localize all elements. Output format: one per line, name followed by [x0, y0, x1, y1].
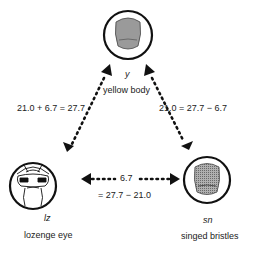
node-sn — [184, 157, 230, 203]
node-y-symbol: y — [125, 69, 130, 79]
edge-y-sn-label: 21.0 = 27.7 − 6.7 — [159, 103, 227, 113]
edge-y-lz-label: 21.0 + 6.7 = 27.7 — [17, 103, 85, 113]
singed-bristles-body-icon — [194, 164, 219, 195]
node-lz-symbol: lz — [44, 213, 51, 223]
edge-lz-sn-label-bottom: = 27.7 − 21.0 — [98, 190, 151, 200]
node-y-name: yellow body — [103, 85, 150, 95]
yellow-body-icon — [115, 18, 140, 49]
node-y — [104, 11, 152, 59]
arrowhead-icon — [170, 173, 180, 185]
edge-lz-sn-label-top: 6.7 — [120, 173, 133, 183]
node-lz-name: lozenge eye — [24, 230, 73, 240]
arrowhead-icon — [181, 141, 193, 150]
node-lz — [10, 163, 56, 209]
arrowhead-icon — [81, 173, 91, 185]
node-sn-symbol: sn — [203, 215, 213, 225]
arrowhead-icon — [101, 64, 112, 76]
arrowhead-icon — [144, 64, 155, 76]
gene-map-diagram — [0, 0, 255, 255]
node-sn-name: singed bristles — [181, 231, 239, 241]
